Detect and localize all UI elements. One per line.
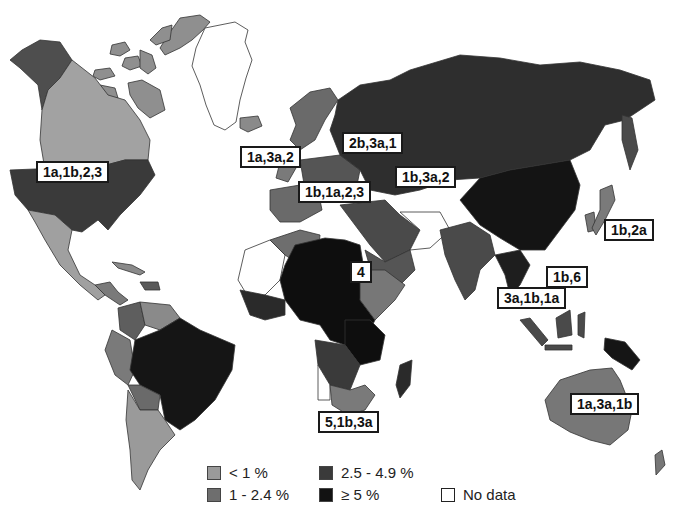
legend-label: ≥ 5 %: [341, 486, 379, 503]
madagascar: [396, 360, 412, 398]
legend-label: 2.5 - 4.9 %: [341, 464, 414, 481]
scandinavia: [290, 88, 338, 150]
iceland: [240, 116, 262, 132]
kamchatka: [622, 115, 638, 170]
west-africa-coast: [240, 290, 285, 320]
legend-swatch: [441, 488, 455, 502]
indonesia: [520, 310, 585, 350]
label-east-asia: 1b,6: [546, 266, 588, 288]
legend-swatch: [319, 466, 333, 480]
legend-swatch: [319, 488, 333, 502]
label-north-central-africa: 4: [350, 261, 372, 283]
legend-item-2-5-to-4-9: 2.5 - 4.9 %: [319, 464, 414, 481]
label-australia: 1a,3a,1b: [570, 393, 639, 415]
legend-swatch: [207, 466, 221, 480]
legend-label: No data: [463, 486, 516, 503]
legend-label: < 1 %: [229, 464, 268, 481]
cuba: [112, 262, 145, 275]
legend-item-1-to-2-4: 1 - 2.4 %: [207, 486, 289, 503]
label-western-europe: 1a,3a,2: [240, 146, 301, 168]
label-southern-africa: 5,1b,3a: [318, 411, 379, 433]
label-japan: 1b,2a: [604, 219, 654, 241]
peru-ecuador: [105, 330, 135, 385]
legend-item-lt1: < 1 %: [207, 464, 268, 481]
map-legend: < 1 % 1 - 2.4 % 2.5 - 4.9 % ≥ 5 % No dat…: [207, 464, 567, 508]
world-prevalence-map: [0, 0, 675, 518]
label-russia: 1b,3a,2: [395, 166, 456, 188]
russia: [330, 55, 655, 195]
legend-swatch: [207, 488, 221, 502]
label-north-america: 1a,1b,2,3: [36, 161, 109, 183]
legend-item-ge5: ≥ 5 %: [319, 486, 379, 503]
legend-label: 1 - 2.4 %: [229, 486, 289, 503]
new-zealand: [655, 450, 665, 475]
new-guinea: [604, 338, 640, 370]
label-scandinavia: 2b,3a,1: [342, 132, 403, 154]
legend-item-no-data: No data: [441, 486, 516, 503]
greenland: [192, 22, 252, 130]
india: [440, 222, 495, 300]
label-central-europe: 1b,1a,2,3: [298, 181, 371, 203]
label-southeast-asia: 3a,1b,1a: [497, 287, 566, 309]
hispaniola: [140, 282, 160, 290]
